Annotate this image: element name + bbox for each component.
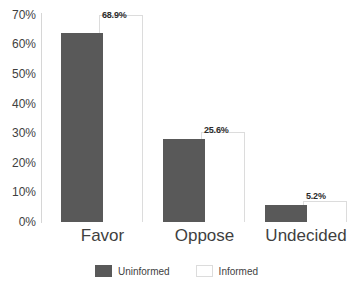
- y-tick-0: 0%: [0, 216, 36, 228]
- x-label-undecided: Undecided: [256, 226, 353, 246]
- data-label-oppose: 25.6%: [204, 125, 229, 135]
- bar-favor-informed: [99, 15, 143, 222]
- dark-swatch-icon: [95, 265, 112, 277]
- bar-oppose-uninformed: [163, 139, 205, 222]
- y-tick-60: 60%: [0, 38, 36, 50]
- x-label-oppose: Oppose: [157, 226, 252, 246]
- y-tick-40: 40%: [0, 98, 36, 110]
- bar-group-oppose: 25.6%: [157, 15, 252, 222]
- data-label-undecided: 5.2%: [306, 191, 326, 201]
- bar-undecided-informed: [303, 201, 347, 222]
- bar-undecided-uninformed: [265, 205, 307, 222]
- bar-chart: 70% 60% 50% 40% 30% 20% 10% 0% 68.9% 25.…: [0, 0, 353, 286]
- y-axis-labels: 70% 60% 50% 40% 30% 20% 10% 0%: [0, 0, 38, 286]
- legend-label-uninformed: Uninformed: [118, 266, 170, 277]
- data-label-favor: 68.9%: [102, 10, 127, 20]
- light-swatch-icon: [196, 265, 213, 277]
- y-tick-20: 20%: [0, 157, 36, 169]
- y-tick-10: 10%: [0, 186, 36, 198]
- bar-oppose-informed: [201, 132, 245, 222]
- bar-group-favor: 68.9%: [55, 15, 150, 222]
- y-tick-50: 50%: [0, 68, 36, 80]
- y-tick-30: 30%: [0, 127, 36, 139]
- legend-label-informed: Informed: [219, 266, 258, 277]
- y-tick-70: 70%: [0, 9, 36, 21]
- bar-group-undecided: 5.2%: [259, 15, 353, 222]
- chart-legend: Uninformed Informed: [0, 261, 353, 281]
- legend-item-uninformed[interactable]: Uninformed: [95, 265, 170, 277]
- legend-item-informed[interactable]: Informed: [196, 265, 258, 277]
- x-axis-labels: Favor Oppose Undecided: [41, 226, 346, 250]
- plot-area: 68.9% 25.6% 5.2%: [41, 15, 346, 222]
- bar-favor-uninformed: [61, 33, 103, 222]
- x-label-favor: Favor: [55, 226, 150, 246]
